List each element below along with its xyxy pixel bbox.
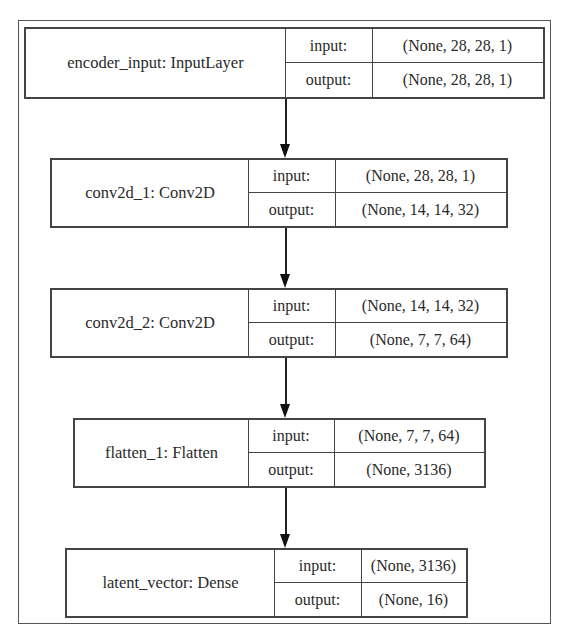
input-label: input: bbox=[248, 290, 336, 323]
edge-line bbox=[285, 99, 287, 145]
output-shape: (None, 7, 7, 64) bbox=[335, 323, 506, 356]
arrow-down-icon bbox=[280, 274, 290, 288]
output-label: output: bbox=[248, 323, 336, 356]
layer-name: encoder_input: InputLayer bbox=[26, 29, 286, 97]
layer-name: latent_vector: Dense bbox=[67, 550, 275, 616]
layer-encoder-input: encoder_input: InputLayer input: output:… bbox=[24, 27, 545, 99]
output-label: output: bbox=[274, 583, 362, 616]
layer-latent-vector: latent_vector: Dense input: output: (Non… bbox=[65, 548, 468, 618]
input-label: input: bbox=[285, 29, 373, 63]
input-label: input: bbox=[248, 420, 335, 453]
layer-flatten-1: flatten_1: Flatten input: output: (None,… bbox=[73, 418, 486, 488]
input-shape: (None, 14, 14, 32) bbox=[335, 290, 506, 323]
edge-line bbox=[285, 358, 287, 405]
output-shape: (None, 16) bbox=[361, 583, 466, 616]
output-label: output: bbox=[248, 193, 336, 226]
input-shape: (None, 3136) bbox=[361, 550, 466, 583]
layer-conv2d-1: conv2d_1: Conv2D input: output: (None, 2… bbox=[50, 158, 508, 228]
input-label: input: bbox=[274, 550, 362, 583]
edge-line bbox=[285, 488, 287, 535]
output-shape: (None, 14, 14, 32) bbox=[335, 193, 506, 226]
input-label: input: bbox=[248, 160, 336, 193]
output-label: output: bbox=[285, 63, 373, 97]
layer-conv2d-2: conv2d_2: Conv2D input: output: (None, 1… bbox=[50, 288, 508, 358]
output-shape: (None, 3136) bbox=[334, 453, 484, 486]
layer-name: conv2d_1: Conv2D bbox=[52, 160, 249, 226]
input-shape: (None, 28, 28, 1) bbox=[335, 160, 506, 193]
arrow-down-icon bbox=[280, 534, 290, 548]
layer-name: flatten_1: Flatten bbox=[75, 420, 249, 486]
arrow-down-icon bbox=[280, 144, 290, 158]
arrow-down-icon bbox=[280, 404, 290, 418]
edge-line bbox=[285, 228, 287, 275]
output-label: output: bbox=[248, 453, 335, 486]
input-shape: (None, 28, 28, 1) bbox=[372, 29, 543, 63]
input-shape: (None, 7, 7, 64) bbox=[334, 420, 484, 453]
layer-name: conv2d_2: Conv2D bbox=[52, 290, 249, 356]
output-shape: (None, 28, 28, 1) bbox=[372, 63, 543, 97]
